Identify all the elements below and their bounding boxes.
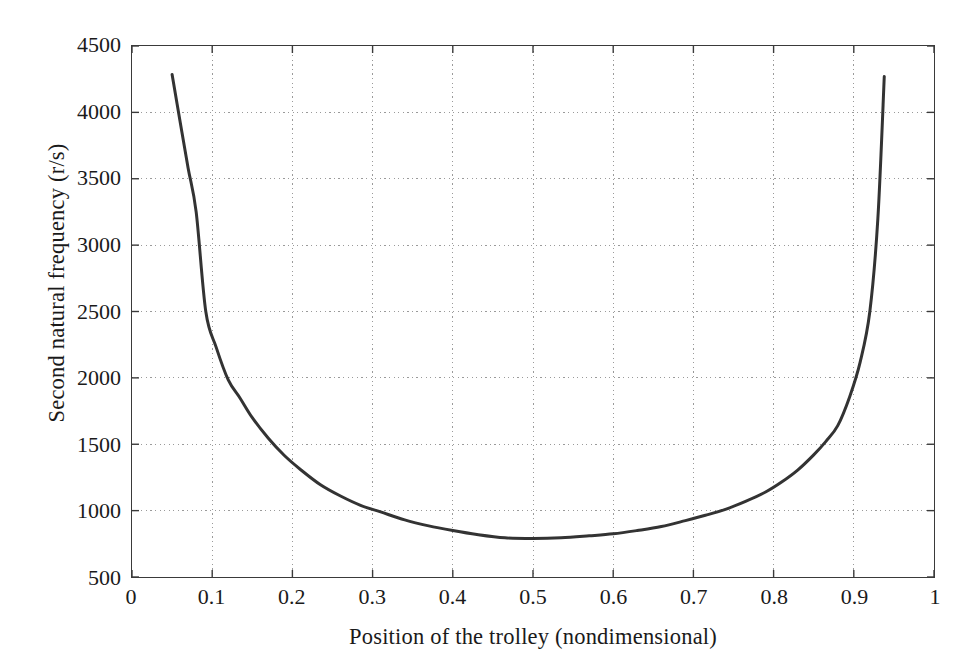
x-tick-labels: 00.10.20.30.40.50.60.70.80.91 — [131, 586, 935, 618]
x-tick-label: 0.9 — [815, 586, 895, 608]
figure-canvas: 50010001500200025003000350040004500 00.1… — [0, 0, 971, 672]
x-tick-label: 0.5 — [493, 586, 573, 608]
y-axis-label: Second natural frequency (r/s) — [44, 23, 70, 543]
data-curve — [132, 46, 934, 577]
x-tick-label: 0.2 — [252, 586, 332, 608]
x-tick-label: 0.4 — [413, 586, 493, 608]
x-tick-label: 0.3 — [332, 586, 412, 608]
x-tick-label: 1 — [895, 586, 971, 608]
x-tick-label: 0.1 — [171, 586, 251, 608]
x-tick-label: 0.8 — [734, 586, 814, 608]
x-tick-label: 0.6 — [573, 586, 653, 608]
x-tick-label: 0.7 — [654, 586, 734, 608]
x-axis-label: Position of the trolley (nondimensional) — [131, 624, 935, 650]
x-tick-label: 0 — [91, 586, 171, 608]
plot-area — [131, 45, 935, 578]
